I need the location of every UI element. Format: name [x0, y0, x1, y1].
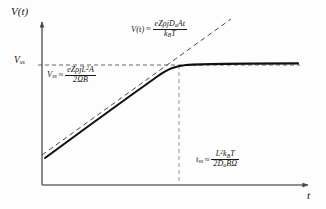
vss-numerator-post: A	[89, 65, 94, 74]
denominator-post: T	[171, 29, 176, 38]
vss-fraction: eZρjL2A 2ΩB	[65, 66, 96, 84]
tangent-asymptote-dashed-line	[42, 19, 231, 155]
linear-regime-lhs: V(t)	[131, 25, 144, 34]
tss-lhs: tss	[196, 155, 203, 164]
annotation-linear-regime: V(t)≈ eZρjDaAt kBT	[131, 20, 187, 39]
vss-tick-subscript: ss	[20, 58, 25, 65]
vss-lhs: Vss	[47, 70, 57, 79]
numerator-post: At	[178, 19, 185, 28]
x-axis-label: t	[307, 190, 310, 202]
vss-approx-symbol: ≈	[57, 71, 65, 79]
numerator-pre: eZρjD	[155, 19, 175, 28]
vss-denominator: 2ΩB	[65, 76, 96, 84]
tss-denominator-post: BΩ	[226, 159, 237, 168]
linear-regime-fraction: eZρjDaAt kBT	[153, 20, 188, 39]
tss-denominator: 2DaBΩ	[211, 160, 239, 169]
annotation-steady-state-voltage: Vss≈ eZρjL2A 2ΩB	[47, 66, 96, 84]
linear-regime-approx-symbol: ≈	[144, 25, 152, 33]
vss-tick-label: Vss	[14, 56, 25, 66]
tss-denominator-pre: 2D	[213, 159, 223, 168]
vss-numerator-pre: eZρjL	[67, 65, 86, 74]
linear-regime-numerator: eZρjDaAt	[153, 20, 188, 30]
linear-regime-denominator: kBT	[153, 30, 188, 39]
y-axis-label: V(t)	[11, 6, 28, 18]
annotation-steady-state-time: tss≈ L2kBT 2DaBΩ	[196, 150, 239, 169]
tss-numerator-post: T	[230, 149, 235, 158]
figure-container: V(t) t Vss V(t)≈ eZρjDaAt kBT Vss≈ eZρjL…	[0, 0, 326, 209]
tss-approx-symbol: ≈	[203, 156, 211, 164]
tss-fraction: L2kBT 2DaBΩ	[211, 150, 239, 169]
